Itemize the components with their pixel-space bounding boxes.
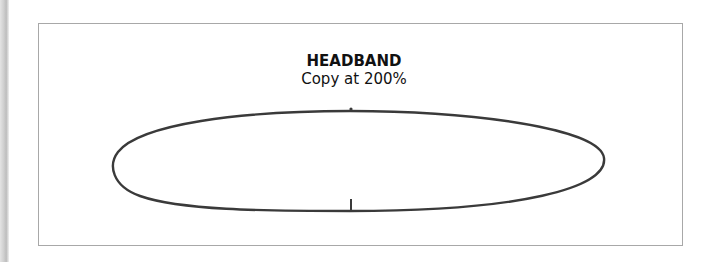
center-dot-marker <box>349 107 352 110</box>
headband-outline <box>113 111 604 211</box>
headband-pattern-outline <box>0 0 708 262</box>
